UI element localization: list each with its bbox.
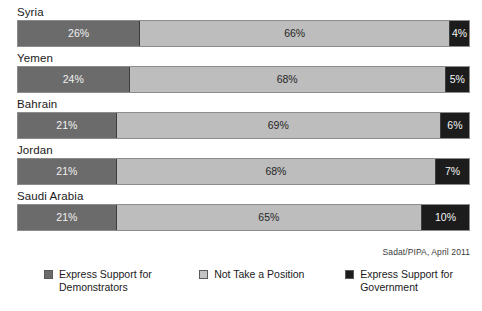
legend-item-support-government[interactable]: Express Support for Government <box>345 268 464 294</box>
bar-segment-support-government[interactable]: 6% <box>441 113 469 138</box>
bar-group-bahrain: Bahrain 21% 69% 6% <box>17 98 470 139</box>
legend-label-not-take-position: Not Take a Position <box>214 268 304 281</box>
bar-segment-support-government[interactable]: 4% <box>450 21 469 46</box>
bar-track-bahrain: 21% 69% 6% <box>17 112 470 139</box>
bar-group-jordan: Jordan 21% 68% 7% <box>17 144 470 185</box>
bar-segment-support-government[interactable]: 10% <box>422 205 469 230</box>
bar-segment-support-demonstrators[interactable]: 21% <box>18 159 117 184</box>
category-label-bahrain: Bahrain <box>17 98 470 112</box>
bar-segment-not-take-position[interactable]: 68% <box>117 159 436 184</box>
bar-track-saudi-arabia: 21% 65% 10% <box>17 204 470 231</box>
stacked-bar-chart: Syria 26% 66% 4% Yemen 24% 68% 5% Bahrai… <box>0 0 482 311</box>
category-label-jordan: Jordan <box>17 144 470 158</box>
source-attribution: Sadat/PIPA, April 2011 <box>383 247 470 257</box>
bar-group-yemen: Yemen 24% 68% 5% <box>17 52 470 93</box>
bar-segment-support-demonstrators[interactable]: 24% <box>18 67 130 92</box>
bar-segment-not-take-position[interactable]: 69% <box>117 113 441 138</box>
category-label-syria: Syria <box>17 6 470 20</box>
category-label-saudi-arabia: Saudi Arabia <box>17 190 470 204</box>
legend-label-support-demonstrators: Express Support for Demonstrators <box>59 268 181 294</box>
category-label-yemen: Yemen <box>17 52 470 66</box>
legend-item-not-take-position[interactable]: Not Take a Position <box>199 268 327 281</box>
legend-item-support-demonstrators[interactable]: Express Support for Demonstrators <box>44 268 181 294</box>
legend-swatch-icon-support-demonstrators <box>44 270 53 279</box>
bar-group-syria: Syria 26% 66% 4% <box>17 6 470 47</box>
bar-segment-support-demonstrators[interactable]: 21% <box>18 205 117 230</box>
chart-legend: Express Support for Demonstrators Not Ta… <box>44 268 464 294</box>
bar-track-yemen: 24% 68% 5% <box>17 66 470 93</box>
bar-segment-not-take-position[interactable]: 68% <box>130 67 446 92</box>
bar-segment-support-government[interactable]: 5% <box>446 67 469 92</box>
bar-segment-support-government[interactable]: 7% <box>436 159 469 184</box>
bar-track-jordan: 21% 68% 7% <box>17 158 470 185</box>
bar-segment-support-demonstrators[interactable]: 21% <box>18 113 117 138</box>
bar-segment-not-take-position[interactable]: 66% <box>140 21 450 46</box>
legend-swatch-icon-not-take-position <box>199 270 208 279</box>
bar-segment-not-take-position[interactable]: 65% <box>117 205 422 230</box>
bar-track-syria: 26% 66% 4% <box>17 20 470 47</box>
legend-swatch-icon-support-government <box>345 270 354 279</box>
bar-segment-support-demonstrators[interactable]: 26% <box>18 21 140 46</box>
bar-group-saudi-arabia: Saudi Arabia 21% 65% 10% <box>17 190 470 231</box>
legend-label-support-government: Express Support for Government <box>360 268 464 294</box>
